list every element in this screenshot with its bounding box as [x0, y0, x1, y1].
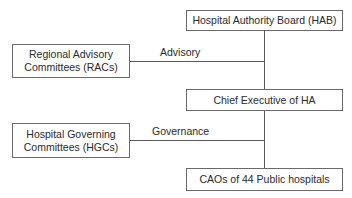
node-label-line2: Committees (HGCs)	[24, 141, 119, 154]
node-hospital-authority-board: Hospital Authority Board (HAB)	[186, 10, 343, 31]
node-label: Hospital Authority Board (HAB)	[192, 14, 336, 27]
connector-ce-cao	[264, 110, 265, 168]
connector-hgc-governance	[129, 140, 265, 141]
connector-rac-advisory	[129, 61, 265, 62]
node-regional-advisory-committees: Regional Advisory Committees (RACs)	[12, 44, 130, 78]
node-hospital-governing-committees: Hospital Governing Committees (HGCs)	[12, 123, 130, 158]
connector-hab-ce	[264, 30, 265, 89]
edge-label-advisory: Advisory	[160, 46, 200, 58]
node-caos-public-hospitals: CAOs of 44 Public hospitals	[186, 168, 343, 191]
node-label-line2: Committees (RACs)	[24, 61, 117, 74]
node-label: CAOs of 44 Public hospitals	[199, 173, 329, 186]
edge-label-governance: Governance	[152, 125, 209, 137]
node-label-line1: Regional Advisory	[29, 48, 113, 61]
node-chief-executive: Chief Executive of HA	[186, 89, 343, 111]
node-label-line1: Hospital Governing	[26, 128, 115, 141]
node-label: Chief Executive of HA	[213, 94, 315, 107]
